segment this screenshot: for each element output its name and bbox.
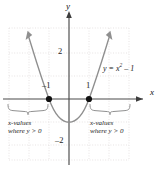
annotation-right-line1: x-values [90, 119, 123, 127]
axes [3, 13, 143, 165]
equation-lhs: y = x [103, 64, 120, 73]
y-tick-label-negative-2: –2 [55, 136, 64, 146]
parabola-plot [0, 0, 160, 171]
annotation-left-line2: where y > 0 [8, 127, 41, 135]
graph-figure: y x 2 –2 –1 1 y = x2 – 1 x-values where … [0, 0, 160, 171]
brace-left [8, 105, 48, 115]
y-axis-arrowhead [66, 11, 72, 18]
x-axis-arrowhead [136, 96, 143, 102]
x-tick-label-negative-1: –1 [42, 81, 51, 91]
x-tick-label-positive-1: 1 [86, 81, 90, 91]
annotation-left: x-values where y > 0 [8, 119, 41, 135]
annotation-left-line1: x-values [8, 119, 41, 127]
annotation-right: x-values where y > 0 [90, 119, 123, 135]
y-tick-label-2: 2 [58, 47, 62, 57]
annotation-right-line2: where y > 0 [90, 127, 123, 135]
brace-right [90, 105, 130, 115]
root-point-negative-one [46, 96, 52, 102]
curve-equation-label: y = x2 – 1 [103, 62, 134, 73]
equation-rhs: – 1 [122, 64, 134, 73]
root-point-positive-one [86, 96, 92, 102]
x-axis-label: x [150, 87, 154, 97]
y-axis-label: y [66, 1, 70, 11]
